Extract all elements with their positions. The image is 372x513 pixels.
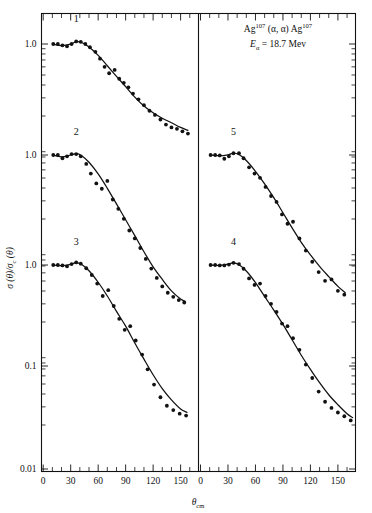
- data-point: [336, 411, 340, 415]
- data-point: [209, 263, 213, 267]
- energy-value: = 18.7 Mev: [259, 39, 306, 49]
- x-tick-label: 90: [278, 476, 288, 486]
- data-point: [304, 249, 308, 253]
- x-tick-label: 30: [223, 476, 233, 486]
- data-point: [269, 194, 273, 198]
- scattering-cross-section-chart: 1.01.01.00.10.01 03060901201500306090120…: [0, 0, 372, 513]
- data-point: [165, 404, 169, 408]
- data-point: [122, 81, 126, 85]
- x-tick-label: 90: [121, 476, 131, 486]
- x-tick-label: 0: [41, 476, 46, 486]
- data-point: [209, 153, 213, 157]
- x-axis-sub: cm: [196, 502, 205, 509]
- data-point: [286, 324, 290, 328]
- data-point: [291, 336, 295, 340]
- x-tick-label: 60: [251, 476, 261, 486]
- curves-layer: [52, 41, 352, 417]
- fit-curve-1: [52, 41, 188, 130]
- data-point: [137, 97, 141, 101]
- curve-label-3: 3: [74, 236, 79, 247]
- x-axis-title: θcm: [192, 497, 206, 509]
- data-point: [134, 339, 138, 343]
- data-point: [65, 264, 69, 268]
- y-axis-tick-labels: 1.01.01.00.10.01: [20, 39, 37, 474]
- data-point: [298, 237, 302, 241]
- curve-label-2: 2: [74, 126, 79, 137]
- data-point: [275, 200, 279, 204]
- x-tick-label: 150: [331, 476, 346, 486]
- data-point: [298, 348, 302, 352]
- data-point: [170, 126, 174, 130]
- data-point: [84, 162, 88, 166]
- data-point: [90, 273, 94, 277]
- curve-label-4: 4: [231, 236, 236, 247]
- data-point: [182, 301, 186, 305]
- data-point: [166, 291, 170, 295]
- data-point: [253, 283, 257, 287]
- data-point: [127, 229, 131, 233]
- data-point: [269, 302, 273, 306]
- data-point: [84, 266, 88, 270]
- data-point: [88, 45, 92, 49]
- data-point: [186, 132, 190, 136]
- data-point: [218, 264, 222, 268]
- data-point: [116, 207, 120, 211]
- data-point: [142, 103, 146, 107]
- data-point: [222, 264, 226, 268]
- data-point: [280, 322, 284, 326]
- data-point: [51, 153, 55, 157]
- data-point: [89, 172, 93, 176]
- fit-curve-5: [210, 153, 346, 293]
- curve-label-1: 1: [74, 13, 79, 24]
- data-point: [227, 263, 231, 267]
- data-point: [227, 154, 231, 158]
- data-point: [79, 40, 83, 44]
- data-point: [242, 267, 246, 271]
- y-tick-label: 0.01: [20, 464, 37, 474]
- data-point: [144, 257, 148, 261]
- data-point: [146, 367, 150, 371]
- data-point: [117, 77, 121, 81]
- y-tick-label: 1.0: [25, 260, 37, 270]
- data-point: [98, 57, 102, 61]
- y-tick-label: 0.1: [25, 361, 37, 371]
- x-tick-label: 0: [198, 476, 203, 486]
- data-point: [56, 153, 60, 157]
- data-point: [330, 406, 334, 410]
- data-point: [264, 294, 268, 298]
- beam-energy-annotation: Eα = 18.7 Mev: [249, 39, 306, 51]
- data-point: [323, 400, 327, 404]
- curve-label-5: 5: [231, 126, 236, 137]
- data-point: [61, 43, 65, 47]
- data-point: [74, 39, 78, 43]
- data-point: [122, 217, 126, 221]
- data-point: [74, 260, 78, 264]
- data-point: [107, 71, 111, 75]
- y-tick-label: 1.0: [25, 150, 37, 160]
- data-point: [131, 92, 135, 96]
- data-point: [70, 152, 74, 156]
- data-point: [51, 263, 55, 267]
- data-point: [123, 328, 127, 332]
- data-point: [61, 264, 65, 268]
- data-point: [242, 156, 246, 160]
- data-point: [149, 267, 153, 271]
- data-point: [213, 263, 217, 267]
- data-point: [70, 262, 74, 266]
- fit-curve-4: [210, 263, 353, 418]
- data-point: [181, 129, 185, 133]
- data-point: [317, 390, 321, 394]
- data-point: [317, 270, 321, 274]
- data-point: [152, 383, 156, 387]
- data-point: [70, 42, 74, 46]
- data-point: [237, 262, 241, 266]
- data-point: [171, 295, 175, 299]
- data-point: [126, 85, 130, 89]
- data-point: [247, 165, 251, 169]
- reaction-ag-prefix: Ag: [244, 24, 256, 34]
- data-point: [112, 304, 116, 308]
- data-point: [105, 179, 109, 183]
- data-point: [258, 176, 262, 180]
- data-point: [79, 154, 83, 158]
- data-point: [330, 277, 334, 281]
